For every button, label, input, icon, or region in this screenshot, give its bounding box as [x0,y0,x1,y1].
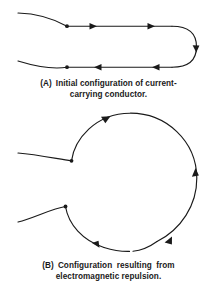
panel-a-current-arrow-top-1 [90,23,98,30]
panel-a-current-arrow-bottom-2 [94,64,102,71]
physics-figure: (A)Initial configuration of current- car… [0,0,217,289]
panel-b-loop-bottom-arc-right [133,242,157,252]
panel-b-caption-text-1: Configuration resulting from [54,261,175,270]
panel-a-drawing [18,13,199,71]
panel-a-caption: (A)Initial configuration of current- car… [0,79,217,100]
panel-a-current-arrow-bend [193,45,200,52]
panel-b-current-arrow-lower-right [165,237,172,245]
panel-a-upper-junction-node [65,24,69,28]
panel-b-loop-upper-arc [72,113,197,241]
panel-a-u-bend [172,26,197,67]
panel-b-drawing [18,113,199,251]
panel-a-current-arrow-top-2 [148,23,156,30]
panel-a-caption-line-2: carrying conductor. [0,90,217,101]
panel-b-lower-junction-node [64,205,68,209]
conductor-diagram [0,0,217,289]
panel-b-lower-lead [18,207,66,223]
panel-b-caption-line-2: electromagnetic repulsion. [0,272,217,283]
panel-a-caption-text-1: Initial configuration of current- [52,79,177,88]
panel-b-label: (B) [42,261,54,270]
panel-b-current-arrow-bottom-left [92,241,100,248]
panel-b-caption-line-1: (B)Configuration resulting from [0,261,217,272]
panel-b-current-arrow-right [192,168,199,177]
panel-a-lower-lead [18,61,67,68]
panel-b-upper-junction-node [70,159,74,163]
panel-a-upper-lead [18,13,67,26]
panel-a-lower-junction-node [65,65,69,69]
panel-a-label: (A) [40,79,52,88]
panel-a-current-arrow-bottom-1 [152,64,160,71]
panel-b-caption: (B)Configuration resulting from electrom… [0,261,217,282]
panel-b-upper-lead [18,153,72,161]
panel-a-caption-line-1: (A)Initial configuration of current- [0,79,217,90]
panel-b-loop-bottom-arc [104,248,130,252]
